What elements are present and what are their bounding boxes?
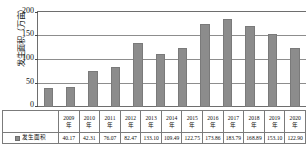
table-year-cell: 2009年 — [59, 111, 80, 133]
table-value-cell: 183.79 — [223, 133, 244, 144]
table-year-cell: 2014年 — [161, 111, 182, 133]
bar-slot — [261, 11, 283, 107]
table-year-cell: 2016年 — [203, 111, 224, 133]
table-year-cell: 2018年 — [244, 111, 265, 133]
bar — [200, 24, 209, 107]
bar-slot — [284, 11, 306, 107]
plot-area: 发生面积（万亩） 200 150 100 50 0 — [0, 0, 308, 112]
bar-series — [37, 11, 306, 107]
bar — [178, 48, 187, 107]
table-value-cell: 122.90 — [285, 133, 306, 144]
bar — [245, 26, 254, 107]
bar-slot — [37, 11, 59, 107]
table-row-values: 发生面积 40.1742.3176.0782.47133.10109.49122… — [3, 133, 306, 144]
legend-swatch-icon — [15, 136, 20, 141]
bar — [156, 54, 165, 107]
data-table: 2009年2010年2011年2012年2013年2014年2015年2016年… — [2, 110, 306, 144]
bar-slot — [59, 11, 81, 107]
bar — [88, 71, 97, 108]
y-axis-ticks: 200 150 100 50 0 — [10, 0, 34, 100]
bar-slot — [216, 11, 238, 107]
bar-slot — [104, 11, 126, 107]
bar — [66, 87, 75, 107]
table-year-cell: 2011年 — [100, 111, 121, 133]
bar-slot — [149, 11, 171, 107]
legend-series-label: 发生面积 — [22, 135, 46, 141]
table-value-cell: 173.86 — [203, 133, 224, 144]
y-tick-100: 100 — [12, 54, 34, 62]
data-table-wrapper: 2009年2010年2011年2012年2013年2014年2015年2016年… — [2, 110, 306, 154]
chart-figure: 发生面积（万亩） 200 150 100 50 0 2009年2010年 — [0, 0, 308, 155]
table-value-cell: 153.10 — [264, 133, 285, 144]
table-year-cell: 2019年 — [264, 111, 285, 133]
table-corner-blank — [3, 111, 59, 133]
table-value-cell: 42.31 — [79, 133, 100, 144]
table-year-cell: 2013年 — [141, 111, 162, 133]
bar-slot — [239, 11, 261, 107]
table-value-cell: 133.10 — [141, 133, 162, 144]
table-value-cell: 40.17 — [59, 133, 80, 144]
table-row-years: 2009年2010年2011年2012年2013年2014年2015年2016年… — [3, 111, 306, 133]
table-year-cell: 2010年 — [79, 111, 100, 133]
bar — [44, 88, 53, 107]
bar — [133, 43, 142, 107]
table-year-cell: 2015年 — [182, 111, 203, 133]
table-year-cell: 2012年 — [120, 111, 141, 133]
bar — [268, 34, 277, 107]
legend-series-cell: 发生面积 — [3, 133, 59, 144]
bar-slot — [127, 11, 149, 107]
y-tick-0: 0 — [12, 101, 34, 109]
bar — [290, 48, 299, 107]
bar-slot — [194, 11, 216, 107]
bar — [223, 19, 232, 107]
table-value-cell: 109.49 — [161, 133, 182, 144]
table-value-cell: 168.89 — [244, 133, 265, 144]
y-tick-150: 150 — [12, 30, 34, 38]
table-year-cell: 2020年 — [285, 111, 306, 133]
bar-slot — [172, 11, 194, 107]
bar-slot — [82, 11, 104, 107]
table-value-cell: 76.07 — [100, 133, 121, 144]
y-tick-50: 50 — [12, 78, 34, 86]
y-tick-200: 200 — [12, 7, 34, 15]
table-value-cell: 122.75 — [182, 133, 203, 144]
table-value-cell: 82.47 — [120, 133, 141, 144]
table-year-cell: 2017年 — [223, 111, 244, 133]
bar — [111, 67, 120, 107]
